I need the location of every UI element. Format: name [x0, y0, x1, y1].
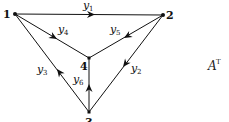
edge-y1	[15, 14, 163, 15]
edge-label-y5: y 5	[109, 23, 120, 37]
matrix-transpose-label: A T	[207, 58, 221, 73]
svg-text:6: 6	[79, 79, 84, 87]
node-3-label: 3	[85, 116, 93, 122]
svg-text:1: 1	[89, 5, 93, 13]
edge-label-y1: y 1	[82, 0, 93, 13]
edge-label-y2: y 2	[130, 62, 141, 76]
node-1-dot	[13, 12, 17, 16]
graph-diagram: 1 2 4 3 y 1 y 4 y 5 y 3 y 6 y 2 A T	[0, 0, 229, 122]
edge-y4	[15, 14, 89, 58]
node-1-label: 1	[3, 8, 11, 21]
node-3-dot	[88, 111, 91, 114]
node-2-dot	[161, 13, 165, 17]
edge-label-y4: y 4	[57, 23, 69, 37]
svg-text:2: 2	[137, 68, 141, 76]
edge-label-y6: y 6	[72, 73, 84, 87]
edge-label-y3: y 3	[36, 63, 47, 77]
svg-text:3: 3	[43, 69, 47, 77]
svg-text:T: T	[216, 58, 221, 66]
arrow-y5-icon	[122, 31, 132, 41]
node-2-label: 2	[166, 9, 174, 22]
svg-text:5: 5	[116, 29, 120, 37]
node-4-dot	[88, 57, 91, 60]
node-4-label: 4	[80, 60, 88, 73]
edge-y3	[15, 14, 89, 112]
svg-text:4: 4	[64, 29, 69, 37]
